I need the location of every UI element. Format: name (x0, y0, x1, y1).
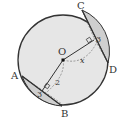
center-point-O (62, 59, 65, 62)
label-C: C (77, 0, 85, 11)
label-half-chord-CD: 3 (96, 35, 101, 44)
label-A: A (10, 70, 19, 81)
label-distance-2: 2 (55, 78, 60, 87)
label-distance-x: x (80, 56, 85, 65)
label-half-chord-AB: 3 (37, 90, 42, 99)
label-B: B (61, 108, 68, 119)
label-O: O (58, 46, 66, 57)
label-D: D (109, 64, 117, 75)
circle-diagram: O A B C D 2 x 3 3 (0, 0, 125, 125)
